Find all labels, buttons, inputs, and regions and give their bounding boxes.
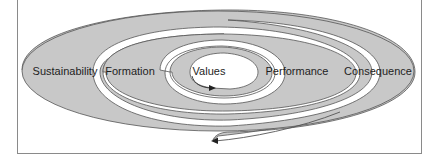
label-consequence: Consequence (344, 65, 412, 77)
label-values: Values (193, 65, 226, 77)
label-sustainability: Sustainability (33, 65, 98, 77)
spiral-diagram (0, 0, 436, 159)
label-performance: Performance (266, 65, 329, 77)
label-formation: Formation (105, 65, 155, 77)
